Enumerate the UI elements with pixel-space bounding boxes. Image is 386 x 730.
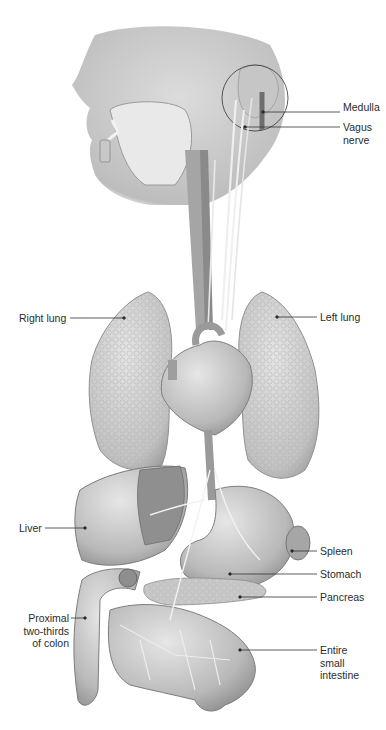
label-left-lung: Left lung bbox=[320, 311, 360, 324]
liver bbox=[75, 466, 188, 565]
label-small-intestine: Entire small intestine bbox=[320, 644, 359, 682]
label-spleen: Spleen bbox=[320, 545, 353, 558]
spleen bbox=[286, 526, 310, 560]
small-intestine bbox=[108, 605, 255, 711]
label-proximal-colon: Proximal two-thirds of colon bbox=[14, 612, 69, 650]
label-right-lung: Right lung bbox=[19, 312, 66, 325]
head bbox=[72, 26, 285, 205]
vagus-nerve-diagram: Medulla Vagus nerve Right lung Left lung… bbox=[0, 0, 386, 730]
label-medulla: Medulla bbox=[343, 101, 380, 114]
right-lung bbox=[89, 292, 172, 470]
esophagus bbox=[208, 430, 212, 500]
label-vagus-nerve: Vagus nerve bbox=[343, 121, 372, 146]
label-liver: Liver bbox=[19, 522, 42, 535]
label-stomach: Stomach bbox=[320, 568, 361, 581]
label-pancreas: Pancreas bbox=[320, 591, 364, 604]
